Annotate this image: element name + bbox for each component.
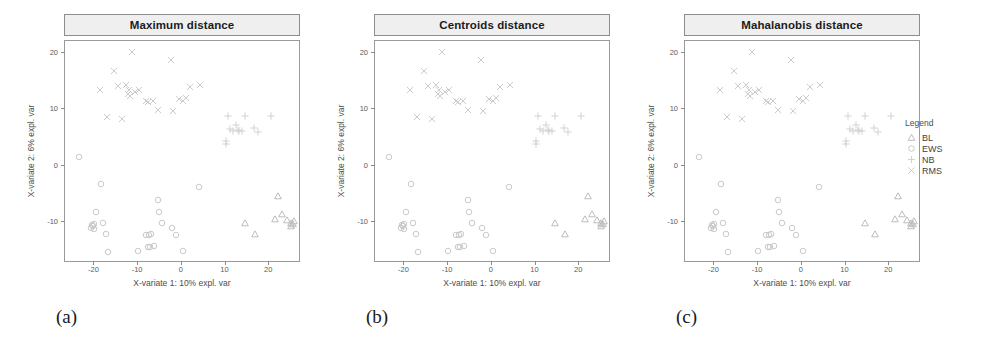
y-tick (371, 165, 375, 166)
data-point-nb (233, 125, 242, 134)
data-point-rms (419, 67, 428, 76)
data-point-rms (131, 88, 140, 97)
data-point-bl (282, 216, 291, 225)
data-point-ews (146, 229, 155, 238)
data-point-ews (150, 242, 159, 251)
data-point-bl (274, 191, 283, 200)
data-point-rms (805, 83, 814, 92)
y-tick-label: -10 (357, 216, 368, 225)
data-point-ews (463, 196, 472, 205)
data-point-nb (222, 140, 231, 149)
data-point-ews (791, 231, 800, 240)
panel-title: Centroids distance (375, 15, 609, 35)
y-tick-label: 0 (54, 160, 58, 169)
data-point-nb (532, 140, 541, 149)
panel-1: Maximum distanceX-variate 2: 6% expl. va… (6, 0, 316, 300)
data-point-ews (398, 221, 407, 230)
data-point-ews (400, 224, 409, 233)
y-tick (61, 108, 65, 109)
scatter-figure: Maximum distanceX-variate 2: 6% expl. va… (0, 0, 994, 345)
data-point-ews (710, 224, 719, 233)
data-point-bl (588, 209, 597, 218)
data-point-ews (717, 180, 726, 189)
plus-marker (905, 154, 918, 165)
y-tick-label: -10 (47, 216, 58, 225)
legend-item-nb[interactable]: NB (905, 154, 989, 165)
data-point-rms (109, 67, 118, 76)
data-point-bl (902, 216, 911, 225)
data-point-rms (747, 47, 756, 56)
x-tick-label: 20 (264, 265, 272, 274)
x-tick-label: 10 (220, 265, 228, 274)
data-point-ews (168, 224, 177, 233)
legend-item-ews[interactable]: EWS (905, 143, 989, 154)
data-point-nb (533, 112, 542, 121)
data-point-rms (168, 106, 177, 115)
data-point-bl (592, 216, 601, 225)
data-point-nb (848, 126, 857, 135)
y-tick (681, 165, 685, 166)
data-point-nb (845, 125, 854, 134)
data-point-bl (898, 209, 907, 218)
data-point-ews (712, 208, 721, 217)
data-point-nb (576, 112, 585, 121)
data-point-rms (124, 85, 133, 94)
y-tick (371, 108, 375, 109)
data-point-ews (408, 218, 417, 227)
data-point-rms (433, 89, 442, 98)
data-point-nb (228, 126, 237, 135)
y-tick (681, 221, 685, 222)
y-tick-label: 20 (670, 48, 678, 57)
y-tick (61, 52, 65, 53)
data-point-rms (478, 106, 487, 115)
data-point-bl (861, 219, 870, 228)
data-point-ews (451, 230, 460, 239)
data-point-rms (505, 80, 514, 89)
data-point-ews (467, 219, 476, 228)
data-point-ews (145, 230, 154, 239)
data-point-ews (798, 247, 807, 256)
data-point-nb (535, 125, 544, 134)
x-axis-title: X-variate 1: 10% expl. var (64, 278, 300, 288)
data-point-ews (815, 182, 824, 191)
data-point-nb (250, 124, 259, 133)
data-point-ews (456, 243, 465, 252)
legend-item-rms[interactable]: RMS (905, 165, 989, 176)
data-point-ews (97, 180, 106, 189)
data-point-bl (287, 218, 296, 227)
data-layer: -20-1001020-1001020 (65, 41, 299, 261)
data-point-ews (454, 242, 463, 251)
data-point-rms (413, 113, 422, 122)
panel-2: Centroids distanceX-variate 2: 6% expl. … (316, 0, 626, 300)
data-point-ews (195, 182, 204, 191)
data-point-rms (451, 97, 460, 106)
data-point-ews (706, 224, 715, 233)
data-point-bl (599, 216, 608, 225)
data-point-ews (774, 208, 783, 217)
panel-title: Maximum distance (65, 15, 299, 35)
data-point-rms (774, 106, 783, 115)
data-point-ews (505, 182, 514, 191)
data-point-rms (733, 81, 742, 90)
data-point-nb (532, 137, 541, 146)
x-tick-label: 10 (530, 265, 538, 274)
data-point-ews (460, 242, 469, 251)
legend-item-label: EWS (922, 144, 943, 154)
data-point-nb (853, 125, 862, 134)
data-point-rms (729, 67, 738, 76)
data-point-rms (118, 114, 127, 123)
data-point-rms (149, 96, 158, 105)
data-point-nb (225, 125, 234, 134)
data-point-ews (765, 230, 774, 239)
data-point-ews (414, 247, 423, 256)
y-axis-title: X-variate 2: 6% expl. var (24, 40, 38, 262)
legend: Legend BLEWSNBRMS (903, 118, 989, 176)
data-point-ews (488, 247, 497, 256)
data-point-nb (266, 112, 275, 121)
data-point-bl (584, 191, 593, 200)
data-point-ews (89, 220, 98, 229)
data-point-nb (235, 126, 244, 135)
panel-3: Mahalanobis distanceX-variate 2: 6% expl… (626, 0, 936, 300)
legend-item-bl[interactable]: BL (905, 132, 989, 143)
data-point-ews (153, 196, 162, 205)
